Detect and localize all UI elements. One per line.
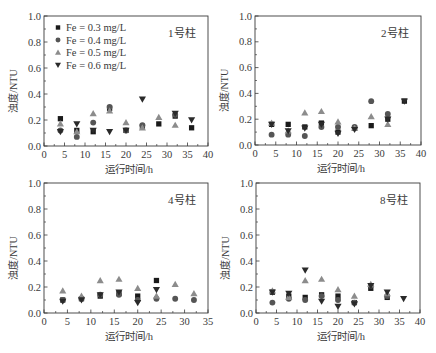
circle-marker — [74, 134, 80, 140]
x-tick-label: 25 — [141, 149, 152, 160]
circle-marker — [269, 132, 275, 138]
triangle-down-marker — [334, 304, 341, 310]
legend-entry-label: Fe = 0.3 mg/L — [66, 22, 126, 33]
data-series — [268, 99, 408, 137]
y-tick-label: 1.0 — [240, 178, 253, 189]
x-axis: 0510152025303540 — [41, 143, 213, 161]
triangle-up-marker — [59, 287, 66, 293]
y-tick-label: 1.0 — [28, 178, 41, 189]
square-marker — [154, 278, 159, 283]
y-axis: 0.00.20.40.60.81.0 — [239, 11, 259, 151]
triangle-up-marker — [153, 293, 160, 299]
x-tick-label: 35 — [395, 148, 406, 159]
y-axis-label: 浊度/NTU — [218, 68, 230, 112]
data-series — [60, 278, 159, 303]
x-tick-label: 10 — [80, 149, 91, 160]
x-tick-label: 40 — [203, 149, 214, 160]
y-tick-label: 0.6 — [239, 62, 252, 73]
y-tick-label: 0.2 — [240, 282, 253, 293]
chart-panel-4: 0.00.20.40.60.81.00510152025303540运行时间/h… — [219, 178, 425, 343]
x-tick-label: 0 — [253, 316, 258, 327]
circle-marker — [319, 293, 325, 299]
x-axis-label: 运行时间/h — [105, 330, 154, 342]
square-marker — [189, 125, 194, 130]
x-tick-label: 10 — [292, 316, 303, 327]
panel-label: 1号柱 — [168, 26, 196, 39]
triangle-down-marker — [153, 287, 160, 293]
triangle-up-marker — [90, 110, 97, 116]
triangle-up-marker — [334, 118, 341, 124]
y-tick-label: 0.2 — [28, 115, 41, 126]
triangle-down-marker — [188, 117, 195, 123]
x-tick-label: 40 — [415, 316, 426, 327]
triangle-down-marker — [400, 296, 407, 302]
circle-marker — [302, 133, 308, 139]
circle-marker — [335, 297, 341, 303]
triangle-up-marker — [134, 285, 141, 291]
x-tick-label: 25 — [354, 148, 365, 159]
panel-label: 2号柱 — [381, 26, 409, 39]
x-tick-label: 0 — [41, 149, 46, 160]
y-tick-label: 0.2 — [28, 282, 41, 293]
circle-marker — [191, 297, 197, 303]
y-tick-label: 0.6 — [28, 230, 41, 241]
triangle-up-marker — [334, 286, 341, 292]
y-axis-label: 浊度/NTU — [7, 236, 19, 280]
triangle-up-marker — [301, 109, 308, 115]
y-axis: 0.00.20.40.60.81.0 — [28, 178, 48, 319]
y-tick-label: 0.8 — [28, 37, 41, 48]
x-tick-label: 40 — [416, 148, 427, 159]
x-tick-label: 30 — [162, 149, 173, 160]
y-tick-label: 0.8 — [240, 204, 253, 215]
y-tick-label: 0.8 — [239, 36, 252, 47]
y-tick-label: 1.0 — [239, 11, 252, 22]
x-tick-label: 35 — [394, 316, 405, 327]
triangle-down-marker — [73, 121, 80, 127]
square-marker — [56, 25, 60, 29]
x-tick-label: 0 — [252, 148, 257, 159]
y-tick-label: 0.4 — [240, 256, 254, 267]
triangle-up-marker — [302, 277, 309, 283]
triangle-up-marker — [318, 276, 325, 282]
triangle-up-marker — [155, 114, 162, 120]
triangle-down-marker — [318, 299, 325, 305]
circle-marker — [368, 98, 374, 104]
x-tick-label: 30 — [374, 316, 385, 327]
triangle-up-marker — [122, 119, 129, 125]
triangle-up-marker — [318, 108, 325, 114]
y-tick-label: 0.4 — [28, 89, 42, 100]
triangle-up-marker — [351, 293, 358, 299]
x-tick-label: 15 — [109, 316, 120, 327]
y-tick-label: 0.0 — [239, 140, 252, 151]
x-tick-label: 15 — [312, 316, 323, 327]
x-tick-label: 30 — [374, 148, 385, 159]
triangle-up-marker — [115, 276, 122, 282]
circle-marker — [56, 38, 61, 43]
chart-panel-1: 0.00.20.40.60.81.00510152025303540运行时间/h… — [7, 11, 213, 176]
x-tick-label: 5 — [62, 149, 67, 160]
circle-marker — [269, 300, 275, 306]
x-tick-label: 10 — [291, 148, 302, 159]
triangle-down-marker — [134, 300, 141, 306]
triangle-up-marker — [172, 281, 179, 287]
x-tick-label: 15 — [312, 148, 323, 159]
figure: 0.00.20.40.60.81.00510152025303540运行时间/h… — [0, 0, 436, 353]
square-marker — [286, 122, 291, 127]
triangle-down-marker — [302, 267, 309, 273]
x-axis-label: 运行时间/h — [317, 162, 366, 174]
y-tick-label: 0.4 — [28, 256, 42, 267]
circle-marker — [385, 111, 391, 117]
y-tick-label: 0.0 — [28, 141, 41, 152]
y-tick-label: 1.0 — [28, 11, 41, 22]
x-axis: 0510152025303540 — [253, 310, 425, 328]
x-tick-label: 20 — [333, 316, 344, 327]
y-axis: 0.00.20.40.60.81.0 — [240, 178, 260, 319]
data-series — [59, 276, 197, 299]
x-tick-label: 25 — [156, 316, 167, 327]
x-tick-label: 35 — [203, 316, 214, 327]
x-tick-label: 0 — [41, 316, 46, 327]
legend-entry-label: Fe = 0.6 mg/L — [66, 60, 126, 71]
legend: Fe = 0.3 mg/LFe = 0.4 mg/LFe = 0.5 mg/LF… — [55, 22, 126, 71]
y-axis: 0.00.20.40.60.81.0 — [28, 11, 48, 152]
x-tick-label: 5 — [274, 316, 279, 327]
